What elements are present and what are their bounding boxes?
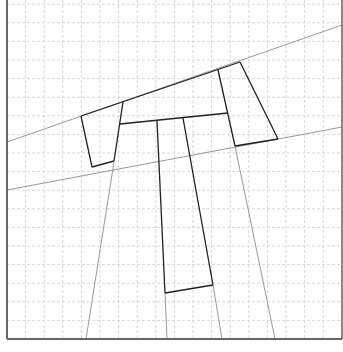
outline-segment [157,121,165,293]
outline-segment [235,139,278,146]
outline-segment [240,62,278,139]
line-diagram [0,0,343,352]
construction-line [165,293,167,339]
construction-line [213,285,222,339]
diagram-canvas [0,0,343,352]
outline-segment [92,161,114,167]
outline-segment [81,62,240,116]
grid-lines [7,0,342,339]
outline-segment [81,116,92,167]
outline-segment [218,70,235,146]
outline-segment [165,285,213,293]
construction-line [235,146,275,339]
outline-segment [183,118,213,285]
